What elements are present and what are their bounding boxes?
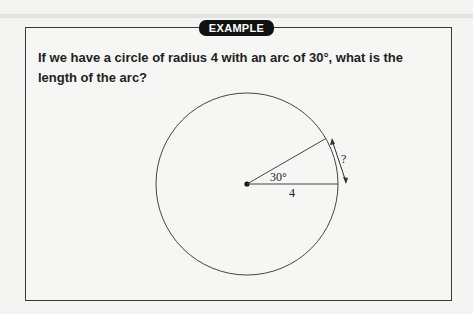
angle-label: 30° <box>270 170 287 184</box>
radius-label: 4 <box>289 186 295 200</box>
arc-label: ? <box>341 152 346 166</box>
circle-diagram: 30° 4 ? <box>0 0 473 314</box>
